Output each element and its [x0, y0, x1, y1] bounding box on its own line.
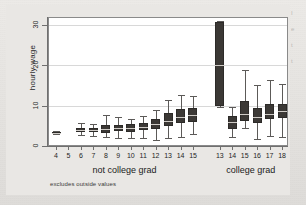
median-line [265, 114, 274, 115]
median-line [176, 117, 185, 118]
cap-lower [165, 138, 172, 139]
box-iqr [164, 113, 173, 125]
x-tick-4 [106, 146, 107, 150]
whisker-upper [118, 117, 119, 125]
median-line [89, 130, 98, 131]
cap-lower [190, 134, 197, 135]
whisker-upper [232, 107, 233, 116]
margin-text-fragment-4: t [291, 58, 305, 64]
whisker-lower [257, 123, 258, 139]
cap-upper [90, 124, 97, 125]
x-tick-label-17: 18 [275, 152, 289, 159]
whisker-lower [168, 126, 169, 138]
x-tick-6 [131, 146, 132, 150]
cap-upper [190, 96, 197, 97]
cap-upper [78, 123, 85, 124]
x-tick-9 [168, 146, 169, 150]
gridline-30 [49, 25, 287, 26]
cap-lower [254, 139, 261, 140]
median-line [52, 133, 61, 134]
cap-lower [178, 137, 185, 138]
cap-upper [115, 117, 122, 118]
y-tick-label-30: 30 [32, 18, 39, 32]
y-tick-10 [42, 106, 47, 107]
cap-lower [115, 138, 122, 139]
x-tick-7 [143, 146, 144, 150]
median-line [253, 117, 262, 118]
x-tick-13 [232, 146, 233, 150]
whisker-upper [257, 85, 258, 108]
whisker-upper [245, 70, 246, 101]
whisker-upper [143, 116, 144, 123]
median-line [114, 128, 123, 129]
median-line [139, 127, 148, 128]
cap-lower [78, 135, 85, 136]
cap-lower [90, 136, 97, 137]
whisker-lower [232, 129, 233, 137]
cap-lower [140, 138, 147, 139]
whisker-lower [270, 119, 271, 136]
median-line [76, 130, 85, 131]
cap-lower [128, 138, 135, 139]
x-tick-label-11: 15 [186, 152, 200, 159]
x-tick-14 [245, 146, 246, 150]
group-label-college-grad: college grad [206, 165, 296, 175]
whisker-upper [282, 84, 283, 105]
x-tick-5 [118, 146, 119, 150]
figure-container: hourly wage 0102030 45678910111213141513… [6, 5, 290, 195]
cap-lower [267, 136, 274, 137]
y-axis-line [47, 17, 48, 146]
y-tick-label-20: 20 [32, 58, 39, 72]
margin-text-fragment-3: t [291, 42, 305, 48]
margin-text-fragment-2: e [291, 26, 305, 32]
figure-footnote: excludes outside values [50, 181, 116, 187]
cap-upper [242, 70, 249, 71]
gridline-20 [49, 65, 287, 66]
y-tick-0 [42, 146, 47, 147]
x-tick-10 [181, 146, 182, 150]
whisker-upper [168, 100, 169, 113]
cap-lower [279, 137, 286, 138]
whisker-lower [193, 122, 194, 134]
whisker-upper [270, 80, 271, 104]
cap-upper [153, 110, 160, 111]
cap-lower [217, 107, 224, 108]
cap-lower [153, 140, 160, 141]
y-tick-label-10: 10 [32, 98, 39, 112]
cap-lower [229, 137, 236, 138]
whisker-lower [181, 123, 182, 136]
cap-upper [103, 115, 110, 116]
median-line [101, 129, 110, 130]
box-iqr [253, 108, 262, 123]
cap-upper [165, 100, 172, 101]
median-line [215, 65, 224, 66]
whisker-upper [181, 95, 182, 109]
whisker-upper [106, 115, 107, 124]
x-tick-2 [81, 146, 82, 150]
x-tick-11 [193, 146, 194, 150]
y-tick-label-0: 0 [32, 139, 39, 153]
cap-upper [178, 95, 185, 96]
y-tick-30 [42, 25, 47, 26]
cap-lower [103, 137, 110, 138]
cap-upper [229, 107, 236, 108]
x-tick-8 [156, 146, 157, 150]
whisker-lower [282, 118, 283, 137]
cap-lower [242, 128, 249, 129]
x-tick-16 [270, 146, 271, 150]
x-tick-3 [93, 146, 94, 150]
x-tick-15 [257, 146, 258, 150]
whisker-lower [245, 121, 246, 129]
x-tick-1 [68, 146, 69, 150]
cap-upper [128, 119, 135, 120]
whisker-lower [156, 129, 157, 140]
box-iqr [240, 101, 249, 121]
cap-upper [254, 85, 261, 86]
whisker-upper [156, 110, 157, 120]
y-tick-20 [42, 65, 47, 66]
box-iqr [265, 104, 274, 119]
whisker-upper [193, 96, 194, 108]
cap-upper [279, 84, 286, 85]
median-line [126, 128, 135, 129]
median-line [151, 124, 160, 125]
